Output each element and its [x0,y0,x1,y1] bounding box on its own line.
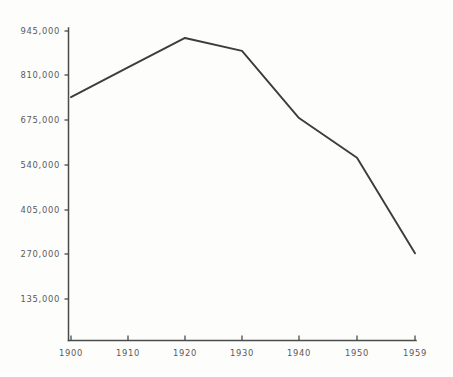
y-tick-label-945000: 945,000 [20,26,60,36]
y-tick-label-405000: 405,000 [20,205,60,215]
y-tick-label-675000: 675,000 [20,115,60,125]
chart-canvas: 945,000 810,000 675,000 540,000 405,000 … [0,0,453,377]
x-tick-label-1920: 1920 [173,348,197,358]
x-tick-label-1940: 1940 [287,348,311,358]
data-series-line [71,38,415,253]
x-tick-label-1900: 1900 [59,348,83,358]
y-tick-label-810000: 810,000 [20,70,60,80]
x-tick-label-1950: 1950 [345,348,369,358]
x-tick-label-1910: 1910 [116,348,140,358]
line-chart: 945,000 810,000 675,000 540,000 405,000 … [0,0,453,377]
x-tick-label-1959: 1959 [403,348,427,358]
y-tick-label-270000: 270,000 [20,249,60,259]
y-tick-label-135000: 135,000 [20,294,60,304]
y-tick-label-540000: 540,000 [20,160,60,170]
x-tick-label-1930: 1930 [230,348,254,358]
